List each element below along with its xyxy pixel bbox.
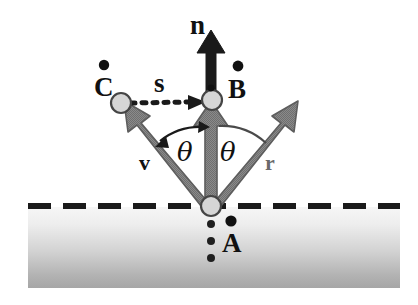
s-displacement-dotted-arrow xyxy=(131,95,206,110)
diagram-canvas xyxy=(0,0,418,305)
material-slab xyxy=(28,207,400,288)
label-normal-n: n xyxy=(190,12,205,39)
view-vector-arrow xyxy=(124,101,211,211)
label-halfway-s: s xyxy=(154,70,165,97)
label-theta-left: θ xyxy=(177,139,193,165)
label-theta-right: θ xyxy=(220,139,236,165)
node-origin xyxy=(201,196,221,216)
label-point-a: A xyxy=(222,230,242,257)
label-point-c: C xyxy=(94,74,114,101)
dot-above-label-c xyxy=(99,60,109,70)
label-point-b: B xyxy=(228,76,246,103)
node-b xyxy=(202,90,222,110)
node-c xyxy=(111,93,131,113)
subsurface-dotted-marker xyxy=(207,220,215,262)
dot-above-label-a xyxy=(225,215,236,226)
dot-above-label-b xyxy=(233,61,244,72)
reflection-diagram-figure: n C B s v r θ θ A xyxy=(0,0,418,305)
label-reflect-r: r xyxy=(265,152,275,174)
label-view-v: v xyxy=(139,152,150,174)
dot-above-b-node xyxy=(208,85,215,92)
